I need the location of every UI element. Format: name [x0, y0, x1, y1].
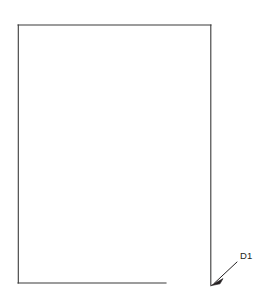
drawing-background: [0, 0, 265, 296]
technical-drawing-figure: D1: [0, 0, 265, 296]
reference-label-d1: D1: [240, 250, 253, 261]
drawing-canvas: D1: [0, 0, 265, 296]
